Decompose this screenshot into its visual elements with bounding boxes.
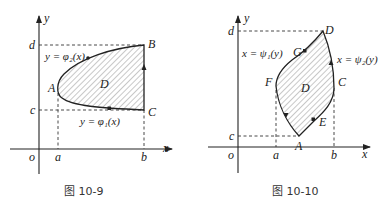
point-b: B (148, 37, 156, 51)
point-c: C (338, 75, 347, 89)
region-label: D (99, 77, 109, 91)
curve-upper-equation: y = φ₂(x) (44, 50, 85, 63)
figure-caption: 图 10-9 (64, 185, 103, 198)
tick-d: d (29, 38, 36, 52)
direction-marker-e (312, 118, 316, 122)
tick-c: c (30, 103, 36, 117)
point-e: E (318, 115, 327, 129)
tick-a: a (273, 148, 279, 162)
direction-marker-upper (86, 56, 90, 60)
point-d: D (324, 23, 334, 37)
figure-10-10: x y o a b c d A C D E F G D x = ψ₁(y) x … (208, 11, 378, 198)
origin-label: o (29, 150, 35, 164)
diagram-canvas: x y o a b c d A B C D y = φ₂(x) y = φ₁(x… (0, 0, 391, 207)
curve-left-equation: x = ψ₁(y) (241, 47, 283, 60)
y-axis-label: y (43, 11, 50, 25)
point-g: G (293, 45, 302, 59)
origin-label: o (228, 148, 234, 162)
direction-marker-g (303, 49, 307, 53)
tick-b: b (331, 148, 337, 162)
figure-10-9: x y o a b c d A B C D y = φ₂(x) y = φ₁(x… (10, 11, 172, 198)
y-axis-label: y (243, 11, 250, 25)
point-a: A (47, 81, 56, 95)
region-label: D (300, 81, 310, 95)
point-f: F (264, 75, 273, 89)
tick-b: b (141, 150, 147, 164)
x-axis-label: x (162, 141, 169, 155)
curve-lower-equation: y = φ₁(x) (79, 115, 120, 128)
tick-a: a (55, 150, 61, 164)
point-c: C (148, 105, 157, 119)
tick-d: d (228, 24, 235, 38)
x-axis-label: x (361, 147, 368, 161)
direction-marker-lower (108, 107, 112, 111)
figure-caption: 图 10-10 (272, 185, 318, 198)
point-a: A (294, 139, 303, 153)
tick-c: c (229, 129, 235, 143)
curve-right-equation: x = ψ₂(y) (336, 53, 378, 66)
